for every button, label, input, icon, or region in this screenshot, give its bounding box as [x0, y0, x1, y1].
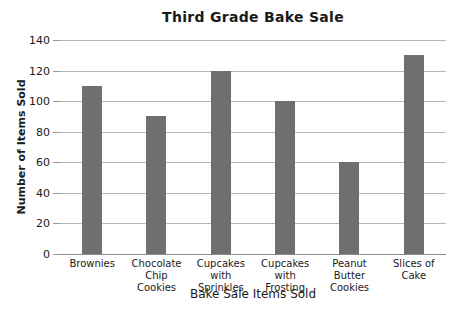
bar-slices-of-cake	[404, 55, 424, 254]
bar-cupcakes-with-frosting	[275, 101, 295, 254]
y-tick-label-120: 120	[29, 64, 50, 77]
bar-band-3	[253, 40, 317, 254]
y-tick-mark-40	[53, 193, 60, 194]
bar-band-4	[317, 40, 381, 254]
y-tick-label-80: 80	[36, 125, 50, 138]
y-tick-label-0: 0	[43, 248, 50, 261]
bar-band-5	[382, 40, 446, 254]
y-tick-mark-80	[53, 132, 60, 133]
y-tick-mark-140	[53, 40, 60, 41]
bar-band-1	[124, 40, 188, 254]
bar-chart: Third Grade Bake Sale Number of Items So…	[0, 0, 469, 314]
y-tick-label-140: 140	[29, 34, 50, 47]
bar-peanut-butter-cookies	[339, 162, 359, 254]
y-axis-tick-labels: 020406080100120140	[0, 40, 50, 254]
x-axis-line	[60, 254, 446, 255]
y-tick-label-20: 20	[36, 217, 50, 230]
bar-cupcakes-with-sprinkles	[211, 71, 231, 254]
y-tick-label-100: 100	[29, 95, 50, 108]
y-tick-mark-120	[53, 71, 60, 72]
y-tick-label-60: 60	[36, 156, 50, 169]
bar-band-2	[189, 40, 253, 254]
plot-area	[60, 40, 446, 254]
x-axis-title: Bake Sale Items Sold	[60, 287, 446, 301]
bar-band-0	[60, 40, 124, 254]
y-tick-mark-100	[53, 101, 60, 102]
x-category-label-5: Slices of Cake	[382, 258, 446, 282]
x-category-label-0: Brownies	[60, 258, 124, 270]
y-tick-label-40: 40	[36, 186, 50, 199]
y-tick-mark-0	[53, 254, 60, 255]
y-tick-mark-60	[53, 162, 60, 163]
y-tick-mark-20	[53, 223, 60, 224]
bar-brownies	[82, 86, 102, 254]
bar-chocolate-chip-cookies	[146, 116, 166, 254]
chart-title: Third Grade Bake Sale	[60, 9, 446, 25]
